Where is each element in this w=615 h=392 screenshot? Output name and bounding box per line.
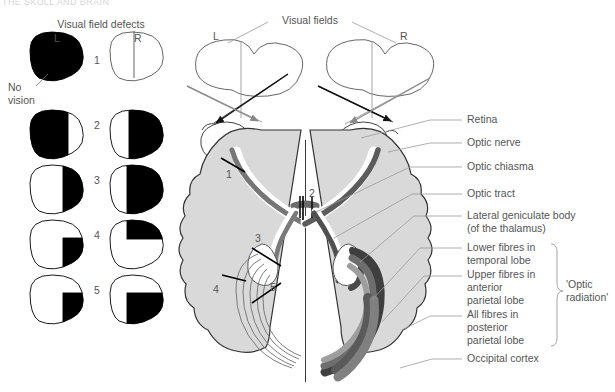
brain-marker-2: 2 [309,187,315,199]
label-optic-chiasma: Optic chiasma [467,160,534,173]
brain-marker-4: 4 [213,283,219,295]
optic-radiation-bracket [551,244,563,346]
visual-field-right [318,40,434,124]
defect-row-3 [30,155,177,225]
visual-fields-heading: Visual fields [270,14,350,27]
brain-marker-5: 5 [270,281,276,293]
figure-canvas: THE SKULL AND BRAIN [0,0,615,392]
label-occipital-cortex: Occipital cortex [467,352,539,365]
defect-number-4: 4 [94,229,100,241]
label-optic-tract: Optic tract [467,187,515,200]
field-to-eye-arrows [187,74,430,123]
defects-col-left-label: L [54,32,60,45]
brain-marker-1: 1 [226,168,232,180]
defect-number-1: 1 [94,54,100,66]
brain-marker-3: 3 [255,232,261,244]
label-optic-nerve: Optic nerve [467,136,521,149]
visual-field-left [187,40,303,123]
defect-number-2: 2 [94,119,100,131]
defects-heading: Visual field defects [36,18,166,31]
label-upper-fibres-anterior-parietal-lobe: Upper fibres in anterior parietal lobe [467,268,535,306]
defect-number-3: 3 [94,174,100,186]
defect-row-2 [20,100,179,170]
defect-row-5 [30,275,177,335]
no-vision-label: No vision [8,81,35,107]
label-lateral-geniculate-body: Lateral geniculate body (of the thalamus… [467,209,576,235]
label-retina: Retina [467,113,497,126]
label-optic-radiation: 'Optic radiation' [566,278,608,304]
defect-number-5: 5 [94,284,100,296]
visual-fields-right-label: R [400,30,408,43]
label-lower-fibres-temporal-lobe: Lower fibres in temporal lobe [467,241,535,267]
defect-row-4 [30,208,177,278]
brain-outline [179,128,432,382]
label-all-fibres-posterior-parietal-lobe: All fibres in posterior parietal lobe [467,308,524,346]
visual-fields-left-label: L [213,30,219,43]
defects-col-right-label: R [134,32,142,45]
